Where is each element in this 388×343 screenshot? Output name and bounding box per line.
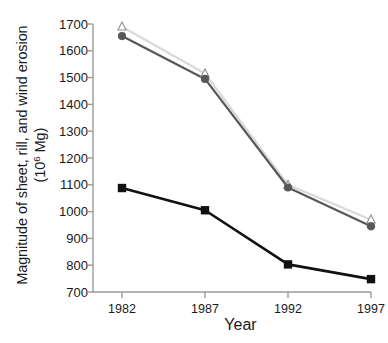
plot-area: [0, 0, 388, 343]
data-point-marker-circle: [284, 183, 292, 191]
data-point-marker-circle: [118, 32, 126, 40]
series-line-black-square-series: [122, 188, 371, 279]
data-point-marker-square: [118, 184, 126, 192]
x-axis-title: Year: [93, 316, 388, 334]
data-point-marker-circle: [367, 222, 375, 230]
data-point-marker-square: [367, 275, 375, 283]
erosion-line-chart: Magnitude of sheet, rill, and wind erosi…: [0, 0, 388, 343]
data-point-marker-square: [201, 206, 209, 214]
data-point-marker-circle: [201, 75, 209, 83]
data-point-marker-triangle: [118, 22, 126, 30]
data-point-marker-square: [284, 260, 292, 268]
